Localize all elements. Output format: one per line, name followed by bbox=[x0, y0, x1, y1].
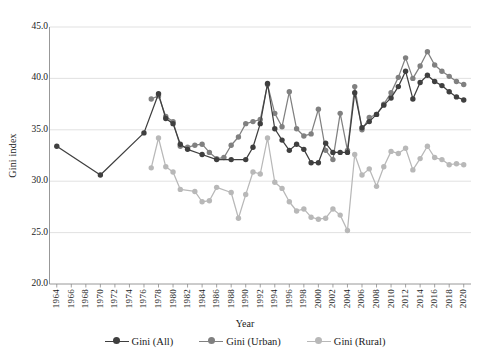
data-point bbox=[439, 69, 444, 74]
data-point bbox=[345, 150, 350, 155]
data-point bbox=[425, 49, 430, 54]
data-point bbox=[359, 125, 364, 130]
data-point bbox=[330, 150, 335, 155]
data-point bbox=[308, 131, 313, 136]
data-point bbox=[337, 150, 342, 155]
data-point bbox=[352, 152, 357, 157]
data-point bbox=[403, 69, 408, 74]
data-point bbox=[432, 155, 437, 160]
data-point bbox=[447, 74, 452, 79]
data-point bbox=[396, 151, 401, 156]
data-point bbox=[258, 171, 263, 176]
data-point bbox=[301, 133, 306, 138]
data-point bbox=[279, 124, 284, 129]
data-point bbox=[316, 217, 321, 222]
data-point bbox=[323, 216, 328, 221]
data-point bbox=[439, 83, 444, 88]
data-point bbox=[156, 91, 161, 96]
data-point bbox=[178, 187, 183, 192]
data-point bbox=[316, 107, 321, 112]
data-point bbox=[243, 157, 248, 162]
data-point bbox=[301, 206, 306, 211]
legend-item[interactable]: Gini (Urban) bbox=[199, 335, 281, 347]
data-point bbox=[374, 184, 379, 189]
data-point bbox=[294, 126, 299, 131]
data-point bbox=[454, 161, 459, 166]
data-point bbox=[417, 63, 422, 68]
data-point bbox=[359, 172, 364, 177]
data-point bbox=[185, 147, 190, 152]
data-point bbox=[417, 156, 422, 161]
data-point bbox=[425, 144, 430, 149]
data-point bbox=[316, 160, 321, 165]
legend-marker-icon bbox=[199, 337, 223, 346]
data-point bbox=[447, 89, 452, 94]
legend-item[interactable]: Gini (Rural) bbox=[307, 335, 386, 347]
data-point bbox=[381, 164, 386, 169]
data-point bbox=[149, 165, 154, 170]
data-point bbox=[396, 75, 401, 80]
data-point bbox=[236, 216, 241, 221]
data-point bbox=[381, 102, 386, 107]
data-point bbox=[272, 180, 277, 185]
data-point bbox=[214, 185, 219, 190]
data-point bbox=[439, 157, 444, 162]
data-point bbox=[461, 97, 466, 102]
data-point bbox=[352, 84, 357, 89]
data-point bbox=[199, 141, 204, 146]
data-point bbox=[287, 89, 292, 94]
data-point bbox=[337, 212, 342, 217]
data-point bbox=[308, 160, 313, 165]
data-point bbox=[192, 189, 197, 194]
data-point bbox=[279, 186, 284, 191]
data-point bbox=[243, 121, 248, 126]
data-point bbox=[250, 169, 255, 174]
data-point bbox=[149, 96, 154, 101]
data-point bbox=[170, 121, 175, 126]
plot-area bbox=[0, 0, 490, 354]
data-point bbox=[323, 140, 328, 145]
data-point bbox=[294, 141, 299, 146]
data-point bbox=[207, 150, 212, 155]
data-point bbox=[287, 148, 292, 153]
data-point bbox=[403, 55, 408, 60]
data-point bbox=[54, 144, 59, 149]
chart-legend: Gini (All)Gini (Urban)Gini (Rural) bbox=[0, 334, 490, 347]
data-point bbox=[454, 94, 459, 99]
data-point bbox=[345, 228, 350, 233]
data-point bbox=[330, 206, 335, 211]
x-axis-title: Year bbox=[0, 318, 490, 329]
data-point bbox=[410, 167, 415, 172]
data-point bbox=[265, 81, 270, 86]
data-point bbox=[425, 73, 430, 78]
legend-item[interactable]: Gini (All) bbox=[105, 335, 174, 347]
data-point bbox=[403, 146, 408, 151]
data-point bbox=[243, 192, 248, 197]
data-point bbox=[367, 119, 372, 124]
data-point bbox=[388, 149, 393, 154]
data-point bbox=[454, 79, 459, 84]
data-point bbox=[98, 172, 103, 177]
data-point bbox=[461, 162, 466, 167]
legend-label: Gini (Rural) bbox=[334, 336, 386, 347]
data-point bbox=[250, 119, 255, 124]
data-point bbox=[396, 84, 401, 89]
data-point bbox=[214, 157, 219, 162]
data-point bbox=[330, 157, 335, 162]
data-point bbox=[170, 169, 175, 174]
series-line bbox=[151, 52, 463, 160]
data-point bbox=[178, 141, 183, 146]
data-point bbox=[308, 214, 313, 219]
data-point bbox=[410, 76, 415, 81]
data-point bbox=[199, 199, 204, 204]
data-point bbox=[374, 112, 379, 117]
series-gini-urban bbox=[149, 49, 467, 162]
data-point bbox=[192, 143, 197, 148]
data-point bbox=[272, 126, 277, 131]
series-gini-rural bbox=[149, 135, 467, 233]
data-point bbox=[228, 143, 233, 148]
data-point bbox=[279, 137, 284, 142]
data-point bbox=[301, 147, 306, 152]
data-point bbox=[228, 190, 233, 195]
legend-marker-icon bbox=[307, 337, 331, 346]
